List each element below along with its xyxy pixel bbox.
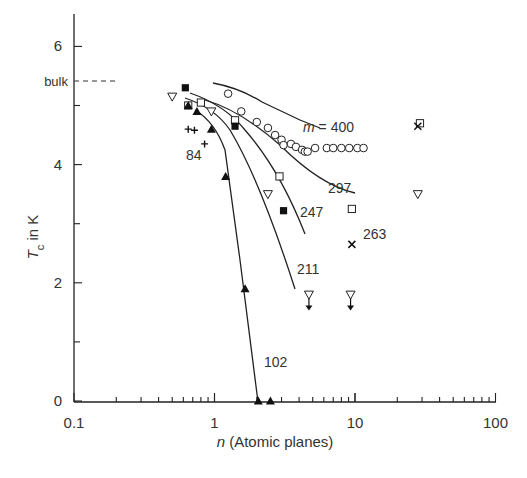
y-axis-title: Tc in K bbox=[24, 215, 46, 260]
x-tick-label: 10 bbox=[347, 414, 364, 431]
chart: 0246 0.1110100 bulk n (Atomic planes) Tc… bbox=[0, 0, 527, 478]
x-axis-title-var: n bbox=[217, 433, 225, 450]
open-circle-marker bbox=[345, 144, 353, 152]
cross-marker bbox=[348, 241, 355, 248]
open-triangle-down-marker bbox=[263, 191, 272, 199]
label-m297: 297 bbox=[328, 180, 352, 196]
filled-triangle-up-marker bbox=[192, 107, 201, 115]
open-square-marker bbox=[276, 173, 283, 180]
x-tick-label: 100 bbox=[483, 414, 508, 431]
filled-triangle-up-marker bbox=[254, 397, 263, 405]
y-tick-label: 0 bbox=[54, 392, 62, 409]
x-axis: 0.1110100 bbox=[64, 393, 508, 431]
open-circle-marker bbox=[224, 90, 232, 98]
open-triangle-down-marker bbox=[304, 291, 313, 299]
y-axis-title-rest: in K bbox=[24, 215, 41, 245]
filled-triangle-up-marker bbox=[266, 397, 275, 405]
upper-limit-arrow-icon bbox=[305, 306, 312, 311]
label-m84: 84 bbox=[186, 147, 202, 163]
label-m400: m = 400 bbox=[303, 119, 354, 135]
open-circle-marker bbox=[311, 144, 319, 152]
filled-square-marker bbox=[182, 84, 189, 91]
filled-square-marker bbox=[280, 207, 287, 214]
open-triangle-down-marker bbox=[207, 108, 216, 116]
open-circle-marker bbox=[264, 124, 272, 132]
curve-m102 bbox=[195, 110, 258, 402]
open-triangle-down-marker bbox=[168, 93, 177, 101]
open-triangle-down-marker bbox=[413, 191, 422, 199]
open-circle-marker bbox=[360, 144, 368, 152]
x-tick-label: 0.1 bbox=[64, 414, 85, 431]
filled-triangle-up-marker bbox=[241, 284, 250, 292]
label-m247: 247 bbox=[300, 204, 324, 220]
open-triangle-down-marker bbox=[346, 291, 355, 299]
filled-square-marker bbox=[231, 123, 238, 130]
plus-marker bbox=[201, 140, 208, 147]
label-m102: 102 bbox=[264, 354, 288, 370]
open-circle-marker bbox=[253, 118, 261, 126]
plus-marker bbox=[185, 126, 192, 133]
y-tick-label: 6 bbox=[54, 37, 62, 54]
open-circle-marker bbox=[338, 144, 346, 152]
label-m211: 211 bbox=[297, 261, 320, 277]
bulk-reference: bulk bbox=[44, 74, 118, 89]
y-tick-label: 2 bbox=[54, 274, 62, 291]
x-axis-title-rest: (Atomic planes) bbox=[225, 433, 333, 450]
upper-limit-arrow-icon bbox=[347, 306, 354, 311]
open-circle-marker bbox=[237, 108, 245, 116]
label-m263: 263 bbox=[363, 226, 387, 242]
bulk-label: bulk bbox=[44, 74, 68, 89]
data-markers bbox=[168, 84, 424, 404]
plus-marker bbox=[191, 127, 198, 134]
open-circle-marker bbox=[329, 144, 337, 152]
open-square-marker bbox=[197, 99, 204, 106]
x-tick-label: 1 bbox=[210, 414, 218, 431]
x-axis-title: n (Atomic planes) bbox=[217, 433, 334, 450]
y-tick-label: 4 bbox=[54, 156, 62, 173]
open-circle-marker bbox=[280, 141, 288, 149]
series-labels: m = 400 297 247 211 263 102 84 bbox=[186, 119, 387, 370]
open-circle-marker bbox=[304, 148, 312, 156]
open-square-marker bbox=[348, 205, 355, 212]
